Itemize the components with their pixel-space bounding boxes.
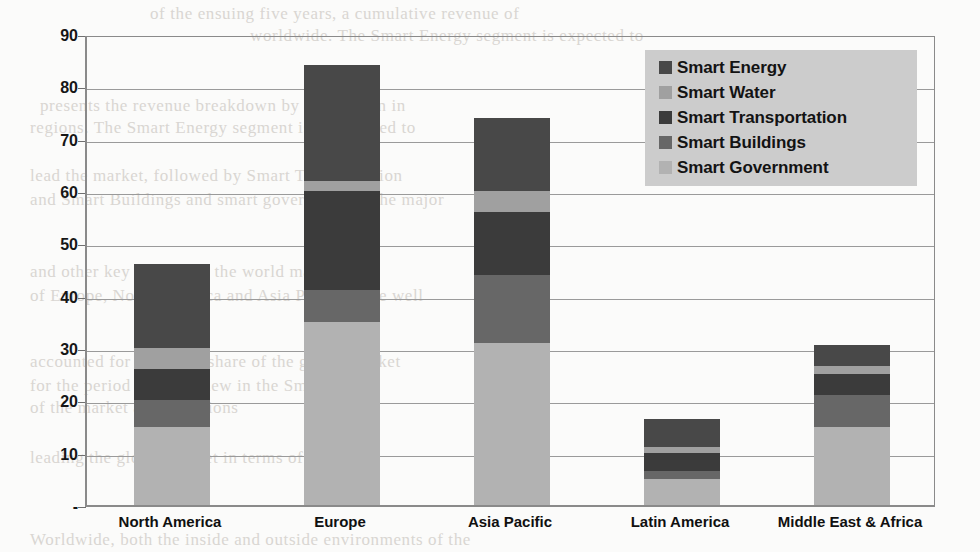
x-axis-label-asia-pacific: Asia Pacific xyxy=(468,513,552,530)
legend-label: Smart Transportation xyxy=(677,108,847,128)
bar-segment xyxy=(814,395,890,426)
bar-segment xyxy=(644,479,720,505)
y-axis-tick-label: 70 xyxy=(18,132,78,150)
legend-item: Smart Government xyxy=(659,155,911,180)
bar-segment xyxy=(644,453,720,471)
x-axis-label-latin-america: Latin America xyxy=(631,513,730,530)
legend-swatch-icon xyxy=(659,161,672,174)
bar-segment xyxy=(474,343,550,505)
bar-segment xyxy=(474,212,550,275)
bar-segment xyxy=(304,65,380,180)
bar-stack xyxy=(474,118,550,505)
legend-swatch-icon xyxy=(659,136,672,149)
bar-segment xyxy=(474,118,550,191)
bar-segment xyxy=(304,290,380,321)
bar-segment xyxy=(644,471,720,479)
x-axis-label-north-america: North America xyxy=(119,513,222,530)
y-axis-tick-label: 30 xyxy=(18,341,78,359)
bar-stack xyxy=(134,264,210,505)
bar-segment xyxy=(304,181,380,191)
legend-swatch-icon xyxy=(659,111,672,124)
legend-item: Smart Water xyxy=(659,80,911,105)
bar-stack xyxy=(304,65,380,505)
legend-item: Smart Buildings xyxy=(659,130,911,155)
legend-label: Smart Water xyxy=(677,83,775,103)
bar-stack xyxy=(644,419,720,505)
chart-legend: Smart EnergySmart WaterSmart Transportat… xyxy=(645,50,917,186)
legend-swatch-icon xyxy=(659,61,672,74)
bar-segment xyxy=(134,264,210,348)
x-axis-label-europe: Europe xyxy=(314,513,366,530)
bar-segment xyxy=(134,348,210,369)
legend-label: Smart Buildings xyxy=(677,133,806,153)
bar-segment xyxy=(814,374,890,395)
bar-segment xyxy=(304,191,380,290)
legend-item: Smart Transportation xyxy=(659,105,911,130)
bar-segment xyxy=(304,322,380,505)
y-axis-tick-mark xyxy=(78,507,86,508)
y-axis-tick-label: 60 xyxy=(18,184,78,202)
y-axis-tick-label: 50 xyxy=(18,236,78,254)
bar-segment xyxy=(814,427,890,506)
bar-segment xyxy=(814,366,890,374)
bar-segment xyxy=(134,427,210,506)
bar-segment xyxy=(134,400,210,426)
bar-segment xyxy=(474,191,550,212)
y-axis-tick-label: 80 xyxy=(18,79,78,97)
y-axis-tick-label: 10 xyxy=(18,446,78,464)
bar-segment xyxy=(134,369,210,400)
x-axis-label-middle-east-africa: Middle East & Africa xyxy=(778,513,922,530)
y-axis-tick-label: 20 xyxy=(18,393,78,411)
legend-item: Smart Energy xyxy=(659,55,911,80)
legend-swatch-icon xyxy=(659,86,672,99)
bar-segment xyxy=(814,345,890,366)
bar-segment xyxy=(474,275,550,343)
y-axis-tick-label: 90 xyxy=(18,27,78,45)
legend-label: Smart Government xyxy=(677,158,828,178)
y-axis-tick-label: 40 xyxy=(18,289,78,307)
y-axis-tick-label: - xyxy=(18,498,78,516)
bar-segment xyxy=(644,419,720,448)
bar-stack xyxy=(814,345,890,505)
legend-label: Smart Energy xyxy=(677,58,786,78)
